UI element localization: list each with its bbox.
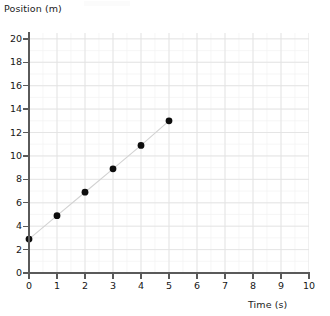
x-tick-label: 5 xyxy=(158,280,180,291)
position-vs-time-chart: Position (m) Time (s) 02468101214161820 … xyxy=(0,0,330,316)
x-tick-label: 8 xyxy=(242,280,264,291)
x-tick-label: 0 xyxy=(18,280,40,291)
y-tick-mark xyxy=(23,202,29,203)
x-tick-mark xyxy=(168,273,169,279)
y-tick-mark xyxy=(23,62,29,63)
y-tick-label: 0 xyxy=(0,267,22,278)
x-tick-label: 9 xyxy=(270,280,292,291)
y-tick-mark xyxy=(23,249,29,250)
x-tick-mark xyxy=(308,273,309,279)
y-tick-mark xyxy=(23,85,29,86)
y-tick-label: 20 xyxy=(0,33,22,44)
y-tick-mark xyxy=(23,155,29,156)
x-tick-mark xyxy=(280,273,281,279)
data-point xyxy=(82,189,89,196)
y-tick-mark xyxy=(23,38,29,39)
data-point xyxy=(166,117,173,124)
x-tick-mark xyxy=(196,273,197,279)
y-tick-mark xyxy=(23,132,29,133)
x-tick-mark xyxy=(84,273,85,279)
data-point xyxy=(138,142,145,149)
y-tick-label: 4 xyxy=(0,220,22,231)
y-axis-line xyxy=(28,32,30,275)
x-tick-mark xyxy=(112,273,113,279)
data-point xyxy=(54,212,61,219)
plot-area xyxy=(29,33,309,273)
y-tick-mark xyxy=(23,108,29,109)
x-tick-label: 6 xyxy=(186,280,208,291)
x-tick-mark xyxy=(224,273,225,279)
x-tick-label: 1 xyxy=(46,280,68,291)
y-tick-label: 18 xyxy=(0,56,22,67)
x-tick-label: 7 xyxy=(214,280,236,291)
x-tick-label: 3 xyxy=(102,280,124,291)
x-tick-mark xyxy=(28,273,29,279)
image-artifact xyxy=(84,1,130,6)
x-tick-label: 2 xyxy=(74,280,96,291)
y-tick-label: 8 xyxy=(0,173,22,184)
y-tick-label: 12 xyxy=(0,127,22,138)
y-tick-label: 2 xyxy=(0,244,22,255)
y-tick-mark xyxy=(23,226,29,227)
x-tick-label: 4 xyxy=(130,280,152,291)
x-tick-mark xyxy=(252,273,253,279)
x-tick-label: 10 xyxy=(298,280,320,291)
y-tick-mark xyxy=(23,179,29,180)
x-tick-mark xyxy=(56,273,57,279)
y-tick-label: 6 xyxy=(0,197,22,208)
y-tick-label: 16 xyxy=(0,80,22,91)
x-axis-title: Time (s) xyxy=(248,299,287,310)
data-point xyxy=(110,165,117,172)
y-tick-label: 10 xyxy=(0,150,22,161)
data-layer xyxy=(29,33,309,273)
trend-line xyxy=(29,121,169,239)
y-axis-title: Position (m) xyxy=(4,3,62,14)
y-tick-label: 14 xyxy=(0,103,22,114)
x-tick-mark xyxy=(140,273,141,279)
